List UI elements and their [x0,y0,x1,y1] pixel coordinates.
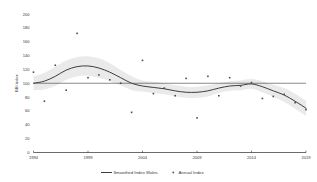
y-axis-ticks: 200180160140120100806040200 [23,12,31,156]
y-tick-label: 40 [25,122,30,127]
y-tick-label: 20 [25,136,30,141]
data-point [164,87,166,89]
chart-figure: 199419992004200920142019 200180160140120… [0,0,317,182]
data-point [196,117,198,119]
y-tick-label: 60 [25,108,30,113]
data-point [185,78,187,80]
data-point [229,77,231,79]
confidence-band [34,56,307,116]
data-point [120,82,122,84]
data-point [87,77,89,79]
data-point [240,85,242,87]
legend-point-marker [173,172,175,174]
data-point [273,96,275,98]
legend-label-smoothed: Smoothed Index Wales [114,170,158,175]
data-point [131,112,133,114]
y-tick-label: 100 [23,81,31,86]
data-point [76,33,78,35]
chart-svg: 199419992004200920142019 200180160140120… [0,0,317,182]
data-point [294,102,296,104]
data-point [207,76,209,78]
data-point [251,82,253,84]
data-point [109,79,111,81]
data-point [218,95,220,97]
x-tick-label: 2004 [138,155,148,160]
y-axis-title: BBI index [14,74,19,92]
data-point [98,74,100,76]
data-point [65,89,67,91]
data-point [142,60,144,62]
legend-label-annual: Annual Index [179,170,205,175]
data-point [153,93,155,95]
x-tick-label: 2019 [301,155,311,160]
data-point [283,94,285,96]
y-tick-label: 160 [23,39,31,44]
y-tick-label: 200 [23,12,31,17]
data-point [44,100,46,102]
y-tick-label: 140 [23,53,31,58]
x-tick-label: 2009 [192,155,202,160]
x-tick-label: 1999 [83,155,93,160]
data-point [174,95,176,97]
data-point [305,109,307,111]
x-tick-label: 2014 [247,155,257,160]
data-point [55,64,57,66]
data-point [262,98,264,100]
chart-legend: Smoothed Index Wales Annual Index [101,170,204,175]
y-tick-label: 120 [23,67,31,72]
x-tick-label: 1994 [29,155,39,160]
y-tick-label: 80 [25,95,30,100]
x-axis-ticks: 199419992004200920142019 [29,151,311,160]
y-tick-label: 180 [23,25,31,30]
data-point [33,71,35,73]
